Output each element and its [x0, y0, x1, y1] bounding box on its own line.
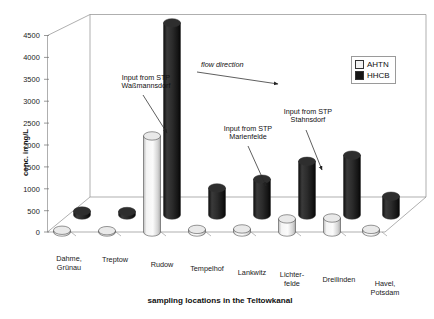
bar-hhcb-3	[209, 184, 226, 219]
bar-ahtn-7	[363, 225, 380, 236]
y-tick-4000: 4000	[6, 53, 40, 62]
x-tick-treptow: Treptow	[89, 256, 141, 265]
bar-ahtn-0	[54, 226, 71, 236]
bar-hhcb-4	[254, 175, 271, 219]
legend-swatch-icon-hhcb	[355, 71, 364, 80]
bar-hhcb-7	[383, 192, 400, 219]
legend: AHTN HHCB	[351, 56, 396, 84]
annotation-stp-wassmannsdorf: Input from STP Waßmannsdorf	[104, 74, 188, 91]
annotation-stp-stahnsdorf: Input from STP Stahnsdorf	[268, 108, 348, 125]
bar-hhcb-1	[119, 207, 136, 219]
x-axis-title: sampling locations in the Teltowkanal	[95, 296, 345, 305]
bar-hhcb-2	[164, 19, 181, 220]
legend-label-ahtn: AHTN	[367, 60, 389, 69]
bar-ahtn-6	[324, 214, 341, 236]
bar-hhcb-0	[74, 207, 91, 219]
bar-ahtn-5	[279, 215, 296, 237]
bar-ahtn-4	[234, 225, 251, 236]
x-tick-havel-potsdam: Havel, Potsdam	[358, 280, 412, 297]
legend-item-hhcb: HHCB	[355, 71, 390, 80]
y-tick-3000: 3000	[6, 97, 40, 106]
legend-swatch-icon-ahtn	[355, 60, 364, 69]
legend-label-hhcb: HHCB	[367, 71, 390, 80]
y-tick-4500: 4500	[6, 31, 40, 40]
bar-hhcb-6	[344, 151, 361, 219]
chart-figure: 4500 4000 3500 3000 2500 2000 1500 1000 …	[0, 0, 434, 319]
annotation-flow-direction: flow direction	[201, 60, 244, 69]
y-tick-500: 500	[6, 207, 40, 216]
y-tick-0: 0	[6, 228, 40, 237]
bar-ahtn-2	[144, 132, 161, 236]
bar-hhcb-5	[299, 157, 316, 219]
y-axis-ticks	[44, 36, 49, 233]
annotation-stp-marienfelde: Input from STP Marienfelde	[206, 125, 290, 142]
y-tick-3500: 3500	[6, 75, 40, 84]
legend-item-ahtn: AHTN	[355, 60, 390, 69]
flow-direction-arrow	[197, 72, 278, 84]
bar-ahtn-3	[189, 225, 206, 236]
y-axis-title: conc. in ng/L	[21, 111, 30, 195]
bar-ahtn-1	[99, 226, 116, 236]
